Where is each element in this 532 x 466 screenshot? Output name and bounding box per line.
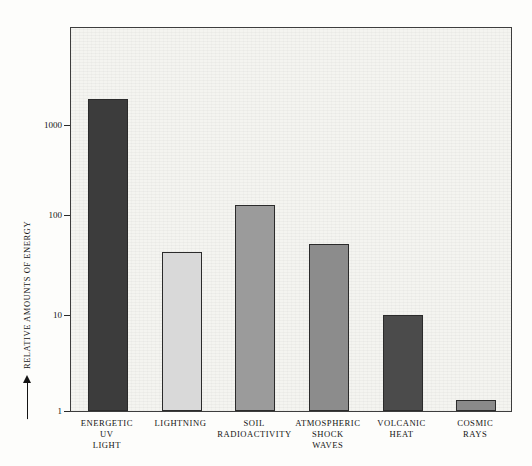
x-tick-label-0: ENERGETICUVLIGHT — [70, 418, 144, 451]
bar-5 — [456, 400, 496, 411]
x-tick-label-5: COSMICRAYS — [438, 418, 512, 440]
x-tick-label-line: COSMIC — [438, 418, 512, 429]
x-tick-label-line: HEAT — [365, 429, 439, 440]
x-tick-label-line: UV — [70, 429, 144, 440]
x-tick-label-line: LIGHT — [70, 440, 144, 451]
x-tick-label-line: SOIL — [217, 418, 291, 429]
x-tick-label-line: LIGHTNING — [144, 418, 218, 429]
chart-figure: RELATIVE AMOUNTS OF ENERGY 1000 100 10 1… — [0, 0, 532, 466]
x-tick-label-line: RAYS — [438, 429, 512, 440]
bar-1 — [162, 252, 202, 411]
x-tick-label-line: SHOCK — [291, 429, 365, 440]
x-tick-label-1: LIGHTNING — [144, 418, 218, 429]
x-tick-label-line: ENERGETIC — [70, 418, 144, 429]
x-tick-label-line: RADIOACTIVITY — [217, 429, 291, 440]
x-tick-label-line: ATMOSPHERIC — [291, 418, 365, 429]
bar-2 — [235, 205, 275, 411]
x-tick-label-4: VOLCANICHEAT — [365, 418, 439, 440]
bar-0 — [88, 99, 128, 412]
x-tick-label-line: WAVES — [291, 440, 365, 451]
bar-4 — [383, 315, 423, 411]
x-tick-label-2: SOILRADIOACTIVITY — [217, 418, 291, 440]
plot-area — [70, 27, 512, 412]
x-tick-label-3: ATMOSPHERICSHOCKWAVES — [291, 418, 365, 451]
bar-3 — [309, 244, 349, 411]
x-axis-tick-labels: ENERGETICUVLIGHTLIGHTNINGSOILRADIOACTIVI… — [70, 418, 512, 464]
x-tick-label-line: VOLCANIC — [365, 418, 439, 429]
